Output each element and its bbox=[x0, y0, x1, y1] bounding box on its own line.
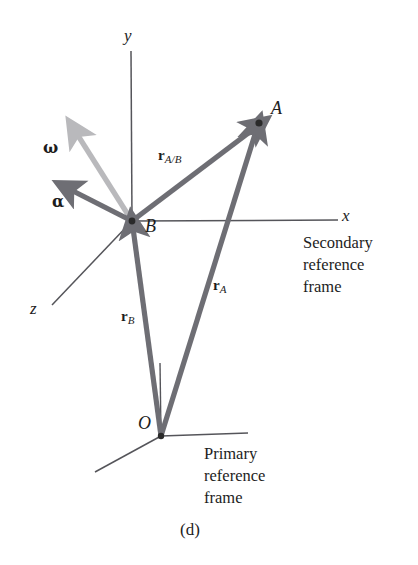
primary-z-axis-line bbox=[95, 436, 161, 472]
z-axis-label: z bbox=[30, 300, 37, 317]
y-axis-line bbox=[131, 51, 132, 221]
point-b-label: B bbox=[145, 217, 156, 235]
x-axis-line bbox=[132, 220, 338, 221]
alpha-label: α bbox=[52, 194, 64, 210]
primary-x-axis-line bbox=[161, 433, 248, 436]
secondary-frame-caption: Secondary reference frame bbox=[303, 232, 373, 297]
r-a-label: rA bbox=[213, 278, 227, 295]
figure-root: y x z A B O ω α rA/B rA rB Secondary ref… bbox=[0, 0, 418, 565]
omega-label: ω bbox=[43, 140, 58, 156]
r-b-subscript: B bbox=[128, 314, 135, 326]
r-a-subscript: A bbox=[220, 283, 227, 295]
secondary-frame-line-2: reference bbox=[303, 254, 373, 276]
secondary-frame-line-1: Secondary bbox=[303, 232, 373, 254]
vector-group bbox=[71, 128, 256, 436]
primary-frame-caption: Primary reference frame bbox=[204, 443, 265, 508]
z-axis-line bbox=[52, 221, 132, 305]
x-axis-label: x bbox=[342, 207, 350, 224]
primary-frame-line-2: reference bbox=[204, 465, 265, 487]
primary-frame-line-1: Primary bbox=[204, 443, 265, 465]
r-b-symbol: r bbox=[121, 308, 128, 324]
r-a-over-b-vector bbox=[132, 128, 255, 221]
point-b-marker bbox=[129, 218, 136, 225]
secondary-frame-axes bbox=[52, 51, 338, 305]
figure-caption: (d) bbox=[180, 521, 200, 538]
point-a-label: A bbox=[271, 99, 282, 117]
r-a-vector bbox=[161, 131, 256, 436]
r-a-over-b-subscript: A/B bbox=[165, 153, 182, 165]
r-b-vector bbox=[133, 228, 161, 436]
secondary-frame-line-3: frame bbox=[303, 276, 373, 298]
r-a-over-b-symbol: r bbox=[158, 147, 165, 163]
point-a-marker bbox=[255, 119, 262, 126]
r-a-over-b-label: rA/B bbox=[158, 148, 182, 165]
r-a-symbol: r bbox=[213, 277, 220, 293]
y-axis-label: y bbox=[124, 27, 132, 44]
point-o-marker bbox=[158, 433, 164, 439]
r-b-label: rB bbox=[121, 309, 135, 326]
primary-frame-line-3: frame bbox=[204, 487, 265, 509]
point-o-label: O bbox=[138, 414, 151, 432]
